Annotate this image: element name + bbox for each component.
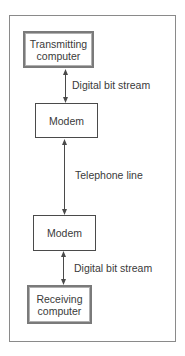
receiving-computer-label: Receiving computer — [36, 293, 82, 317]
modem-2-node: Modem — [33, 215, 96, 251]
edge-label-digital-bit-stream-top: Digital bit stream — [72, 79, 150, 91]
modem-1-label: Modem — [49, 115, 84, 127]
bidirectional-arrow-icon — [60, 251, 67, 285]
modem-1-node: Modem — [35, 103, 98, 138]
edge-label-telephone-line: Telephone line — [75, 169, 143, 181]
transmitting-computer-node: Transmitting computer — [23, 31, 94, 68]
bidirectional-arrow-icon — [62, 69, 69, 103]
modem-2-label: Modem — [47, 227, 82, 239]
transmitting-computer-label: Transmitting computer — [30, 38, 87, 62]
bidirectional-arrow-icon — [61, 139, 68, 215]
edge-label-digital-bit-stream-bottom: Digital bit stream — [74, 262, 152, 274]
receiving-computer-node: Receiving computer — [27, 285, 92, 324]
